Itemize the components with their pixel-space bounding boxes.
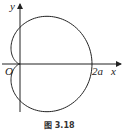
x-axis-label: x [110, 65, 116, 77]
figure-canvas: y x O 2a 图 3.18 [0, 0, 128, 133]
intercept-label: 2a [92, 65, 104, 77]
figure-caption: 图 3.18 [44, 121, 75, 130]
origin-label: O [5, 65, 13, 77]
y-axis-label: y [9, 0, 15, 12]
